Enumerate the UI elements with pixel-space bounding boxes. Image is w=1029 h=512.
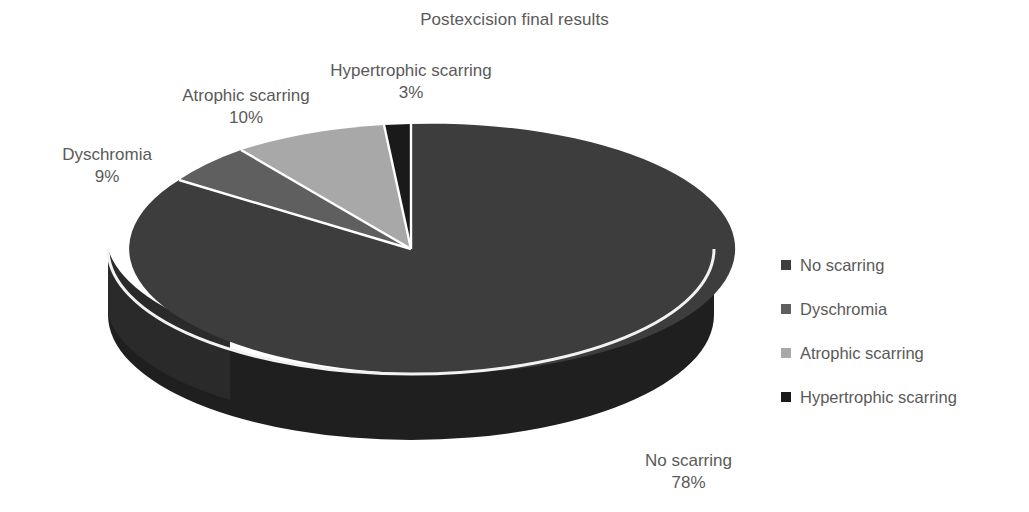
legend-swatch-icon <box>781 348 791 358</box>
legend-item-label: No scarring <box>800 256 884 275</box>
data-label-atrophic-scarring: Atrophic scarring 10% <box>146 85 346 129</box>
legend-item-label: Dyschromia <box>800 300 887 319</box>
legend-swatch-icon <box>781 304 791 314</box>
chart-legend: No scarring Dyschromia Atrophic scarring… <box>781 243 1021 419</box>
legend-item-atrophic-scarring[interactable]: Atrophic scarring <box>781 331 1021 375</box>
legend-item-label: Atrophic scarring <box>800 344 924 363</box>
data-label-value: 9% <box>33 166 181 188</box>
pie-chart-figure: Postexcision final results <box>0 0 1029 512</box>
data-label-dyschromia: Dyschromia 9% <box>33 144 181 188</box>
legend-item-hypertrophic-scarring[interactable]: Hypertrophic scarring <box>781 375 1021 419</box>
data-label-name: Dyschromia <box>33 144 181 166</box>
data-label-name: Hypertrophic scarring <box>291 60 531 82</box>
legend-swatch-icon <box>781 260 791 270</box>
data-label-name: Atrophic scarring <box>146 85 346 107</box>
data-label-name: No scarring <box>596 450 781 472</box>
data-label-value: 10% <box>146 107 346 129</box>
pie-slices <box>129 124 735 374</box>
legend-item-label: Hypertrophic scarring <box>800 388 957 407</box>
legend-item-dyschromia[interactable]: Dyschromia <box>781 287 1021 331</box>
legend-swatch-icon <box>781 392 791 402</box>
legend-item-no-scarring[interactable]: No scarring <box>781 243 1021 287</box>
data-label-no-scarring: No scarring 78% <box>596 450 781 494</box>
data-label-value: 78% <box>596 472 781 494</box>
